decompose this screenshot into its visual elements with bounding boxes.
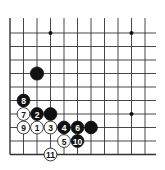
- move-number: 6: [75, 123, 80, 133]
- move-number: 2: [35, 110, 40, 120]
- white-stone: 11: [44, 148, 57, 161]
- move-number: 5: [62, 137, 67, 147]
- go-board: 8729134651011: [0, 0, 165, 170]
- move-number: 11: [46, 150, 55, 160]
- black-stone: [85, 121, 98, 134]
- black-stone: 4: [58, 121, 71, 134]
- star-point: [49, 31, 53, 35]
- move-number: 3: [48, 123, 53, 133]
- black-stone: 6: [71, 121, 84, 134]
- stone-disc: [44, 108, 57, 121]
- white-stone: 7: [17, 108, 30, 121]
- black-stone: [44, 108, 57, 121]
- move-number: 8: [21, 96, 26, 106]
- stone-disc: [85, 121, 98, 134]
- move-number: 9: [21, 123, 26, 133]
- black-stone: 2: [31, 108, 44, 121]
- white-stone: 3: [44, 121, 57, 134]
- black-stone: 10: [71, 135, 84, 148]
- white-stone: 1: [31, 121, 44, 134]
- move-number: 7: [21, 110, 26, 120]
- stone-disc: [30, 67, 43, 80]
- board-grid: [10, 18, 156, 155]
- star-point: [130, 31, 134, 35]
- white-stone: 5: [58, 135, 71, 148]
- move-number: 1: [35, 123, 40, 133]
- black-stone: [30, 67, 43, 80]
- black-stone: 8: [17, 94, 30, 107]
- move-number: 4: [62, 123, 67, 133]
- move-number: 10: [73, 137, 83, 147]
- star-point: [130, 112, 134, 116]
- white-stone: 9: [17, 121, 30, 134]
